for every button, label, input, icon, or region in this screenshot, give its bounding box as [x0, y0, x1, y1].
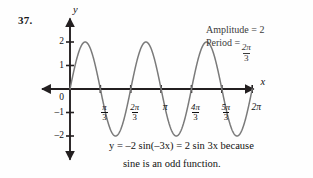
x-tick-label: π — [152, 102, 178, 112]
x-tick-denominator: 3 — [132, 112, 138, 122]
period-text: Period = — [206, 37, 240, 48]
x-tick-text: 2π — [251, 102, 261, 112]
y-tick-label: –2 — [44, 130, 64, 140]
x-tick-numerator: π — [101, 103, 107, 112]
figure-container: 37. y x Amplitude = 2 Period =2π3 y = –2… — [0, 0, 313, 178]
x-tick-numerator: 2π — [129, 103, 140, 112]
x-axis-label: x — [261, 76, 266, 87]
y-tick-label: 1 — [44, 60, 64, 70]
y-tick-label: 2 — [44, 36, 64, 46]
caption-line-1: y = –2 sin(–3x) = 2 sin 3x because — [109, 140, 254, 151]
x-tick-label: 2π — [243, 102, 269, 112]
period-denominator: 3 — [243, 53, 250, 63]
amplitude-annotation: Amplitude = 2 — [206, 25, 264, 36]
sine-graph-plot — [0, 0, 313, 178]
caption-line-2: sine is an odd function. — [123, 158, 221, 169]
period-numerator: 2π — [241, 43, 252, 52]
y-axis-label: y — [73, 4, 78, 15]
x-tick-fraction: 5π3 — [220, 103, 231, 122]
x-tick-denominator: 3 — [192, 112, 198, 122]
period-annotation: Period =2π3 — [206, 38, 252, 63]
x-tick-fraction: 4π3 — [190, 103, 201, 122]
x-tick-denominator: 3 — [101, 112, 107, 122]
y-tick-label: 0 — [44, 92, 64, 102]
x-tick-label: 2π3 — [122, 98, 148, 122]
x-tick-fraction: π3 — [101, 103, 107, 122]
period-fraction: 2π3 — [241, 43, 252, 63]
x-tick-text: π — [163, 102, 168, 112]
x-tick-fraction: 2π3 — [129, 103, 140, 122]
x-tick-label: 5π3 — [213, 98, 239, 122]
x-tick-numerator: 5π — [220, 103, 231, 112]
x-tick-label: 4π3 — [182, 98, 208, 122]
x-tick-numerator: 4π — [190, 103, 201, 112]
x-tick-label: π3 — [91, 98, 117, 122]
x-tick-denominator: 3 — [223, 112, 229, 122]
y-tick-label: –1 — [44, 107, 64, 117]
amplitude-text: Amplitude = 2 — [206, 24, 264, 35]
